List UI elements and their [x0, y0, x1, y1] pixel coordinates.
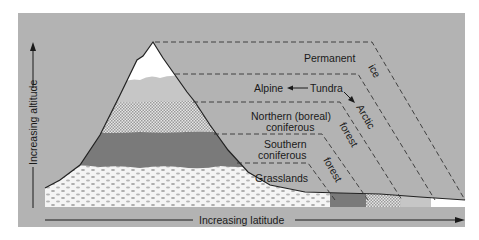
label-boreal-coniferous: coniferous — [266, 121, 314, 133]
y-axis-label: Increasing altitude — [27, 80, 39, 165]
label-permanent: Permanent — [304, 52, 355, 64]
label-alpine: Alpine — [254, 82, 283, 94]
x-axis-label: Increasing latitude — [199, 214, 284, 226]
label-southern-coniferous: coniferous — [258, 149, 306, 161]
label-tundra: Tundra — [310, 82, 343, 94]
altitude-latitude-biome-diagram: Permanent ice Alpine Tundra Arctic North… — [0, 0, 479, 240]
label-grasslands: Grasslands — [255, 172, 308, 184]
